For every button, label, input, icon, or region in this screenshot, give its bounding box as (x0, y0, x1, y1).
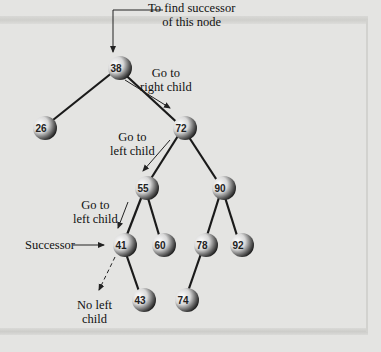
go-left-1-line2: left child (110, 144, 155, 158)
node-value: 41 (115, 240, 127, 251)
node-value: 78 (196, 240, 208, 251)
node-value: 26 (35, 123, 47, 134)
tree-node-72: 72 (173, 116, 197, 140)
successor-label: Successor (25, 238, 75, 252)
go-left-arrow-2 (118, 202, 128, 228)
no-left-child-dashed-arrow (99, 257, 115, 290)
go-left-1-line1: Go to (110, 130, 155, 144)
go-left-2-line2: left child (73, 212, 118, 226)
tree-node-26: 26 (33, 116, 57, 140)
tree-node-43: 43 (132, 288, 156, 312)
no-left-child-annotation: No left child (77, 298, 112, 326)
node-value: 55 (137, 183, 149, 194)
start-annotation-line1: To find successor (148, 1, 235, 15)
diagram-panel: 3826725590416078924374 To find successor… (0, 0, 381, 352)
node-value: 60 (154, 240, 166, 251)
tree-node-38: 38 (108, 56, 132, 80)
tree-node-60: 60 (152, 233, 176, 257)
node-value: 92 (232, 240, 244, 251)
tree-node-78: 78 (194, 233, 218, 257)
tree-edge (43, 68, 118, 128)
tree-node-92: 92 (230, 233, 254, 257)
no-left-line1: No left (77, 298, 112, 312)
node-value: 74 (177, 295, 189, 306)
go-left-2-line1: Go to (73, 198, 118, 212)
tree-node-74: 74 (175, 288, 199, 312)
no-left-line2: child (77, 312, 112, 326)
node-value: 72 (175, 123, 187, 134)
go-left-annotation-1: Go to left child (110, 130, 155, 158)
tree-nodes: 3826725590416078924374 (33, 56, 254, 312)
go-right-line2: right child (140, 80, 192, 94)
start-annotation-line2: of this node (148, 15, 235, 29)
bst-tree: 3826725590416078924374 (0, 0, 381, 352)
start-annotation: To find successor of this node (148, 1, 235, 29)
node-value: 43 (134, 295, 146, 306)
go-right-line1: Go to (140, 66, 192, 80)
go-right-annotation: Go to right child (140, 66, 192, 94)
go-left-annotation-2: Go to left child (73, 198, 118, 226)
tree-node-55: 55 (135, 176, 159, 200)
node-value: 38 (110, 63, 122, 74)
tree-node-41: 41 (113, 233, 137, 257)
node-value: 90 (214, 183, 226, 194)
tree-node-90: 90 (212, 176, 236, 200)
